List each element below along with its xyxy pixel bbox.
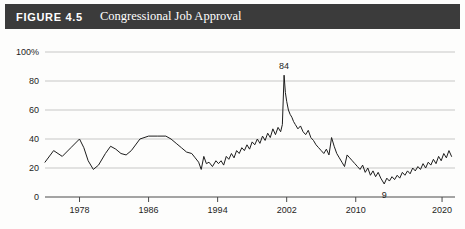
y-tick-label: 60 bbox=[29, 105, 39, 115]
line-chart: 020406080100% 197819861994200220102020 8… bbox=[0, 33, 465, 229]
x-tick-label: 2010 bbox=[346, 205, 366, 215]
x-tick-label: 1994 bbox=[208, 205, 228, 215]
x-tick-label: 1986 bbox=[139, 205, 159, 215]
chart-y-axis-labels: 020406080100% bbox=[16, 47, 39, 202]
y-tick-label: 100% bbox=[16, 47, 39, 57]
y-tick-label: 80 bbox=[29, 76, 39, 86]
chart-plot-area: 020406080100% 197819861994200220102020 8… bbox=[0, 33, 465, 229]
data-annotation: 9 bbox=[382, 190, 387, 200]
y-tick-label: 40 bbox=[29, 134, 39, 144]
figure-title-label: Congressional Job Approval bbox=[100, 9, 242, 24]
data-annotation: 84 bbox=[279, 61, 289, 71]
x-tick-label: 2020 bbox=[432, 205, 452, 215]
chart-x-axis bbox=[45, 197, 455, 202]
chart-annotations: 849 bbox=[279, 61, 387, 200]
x-tick-label: 1978 bbox=[70, 205, 90, 215]
x-tick-label: 2002 bbox=[277, 205, 297, 215]
figure-header-band: FIGURE 4.5 Congressional Job Approval bbox=[5, 4, 460, 29]
figure-container: FIGURE 4.5 Congressional Job Approval 02… bbox=[0, 0, 465, 229]
y-tick-label: 20 bbox=[29, 163, 39, 173]
chart-x-axis-labels: 197819861994200220102020 bbox=[70, 205, 453, 215]
figure-number-label: FIGURE 4.5 bbox=[16, 11, 83, 23]
y-tick-label: 0 bbox=[34, 192, 39, 202]
chart-gridlines bbox=[45, 52, 455, 197]
